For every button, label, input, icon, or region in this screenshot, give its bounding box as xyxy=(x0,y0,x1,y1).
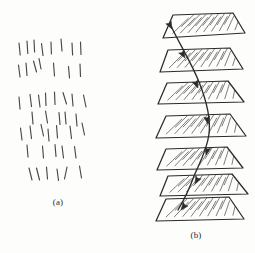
figure-canvas: (a) (b) xyxy=(0,0,255,253)
fiber-segment xyxy=(72,43,73,55)
figure-container: (a) (b) xyxy=(0,0,255,253)
fiber-segment xyxy=(27,41,28,54)
fiber-segment xyxy=(55,92,56,105)
panel-b-caption: (b) xyxy=(190,230,201,240)
fiber-segment xyxy=(34,40,35,52)
panel-a-caption: (a) xyxy=(53,197,64,207)
fiber-segment xyxy=(46,93,47,106)
fiber-segment xyxy=(81,42,82,55)
fiber-segment xyxy=(80,64,81,77)
